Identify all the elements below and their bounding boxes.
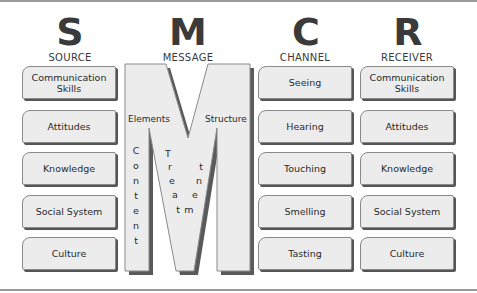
treatment-letter: e [190,189,200,200]
receiver-item: Culture [360,237,454,270]
channel-item: Seeing [258,66,352,99]
content-letter: n [131,175,141,186]
treatment-letter: r [165,161,175,172]
message-elements-label: Elements [128,114,170,124]
content-letter: o [131,160,141,171]
content-letter: C [131,145,141,156]
channel-item: Hearing [258,110,352,143]
content-letter: t [131,235,141,246]
treatment-letter: a [170,189,180,200]
treatment-letter: T [163,148,173,159]
channel-item: Tasting [258,237,352,270]
receiver-item: Social System [360,195,454,228]
treatment-letter: t [196,161,206,172]
message-structure-label: Structure [205,114,247,124]
content-letter: e [131,205,141,216]
treatment-letter: n [194,175,204,186]
treatment-letter: e [167,175,177,186]
content-letter: t [131,190,141,201]
receiver-item: Communication Skills [360,66,454,99]
channel-item: Touching [258,152,352,185]
channel-item: Smelling [258,195,352,228]
treatment-letter: m [184,204,194,215]
treatment-letter: t [173,204,183,215]
content-letter: n [131,220,141,231]
receiver-item: Attitudes [360,110,454,143]
receiver-item: Knowledge [360,152,454,185]
